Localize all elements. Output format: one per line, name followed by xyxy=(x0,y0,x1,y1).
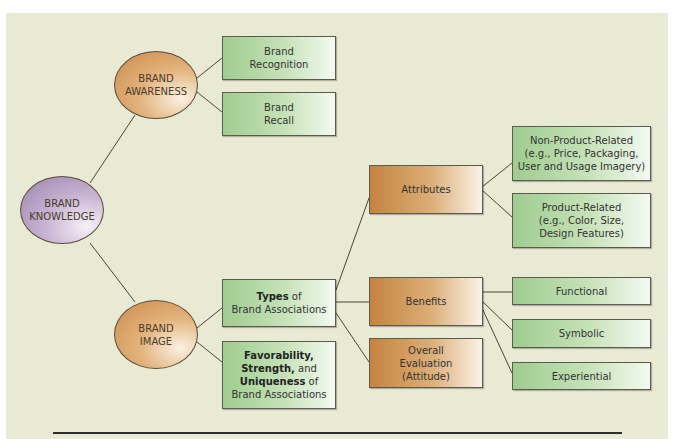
attributes-box: Attributes xyxy=(369,165,483,214)
box-label: Experiential xyxy=(552,370,612,383)
favorability-strength-uniqueness-box: Favorability,Strength, andUniqueness ofB… xyxy=(222,341,336,409)
box-label: Attributes xyxy=(401,183,450,196)
box-label: (e.g., Price, Packaging, xyxy=(525,148,639,159)
node-label: BRAND xyxy=(138,73,173,84)
box-label-bold: Types xyxy=(257,291,289,302)
brand-image-node: BRANDIMAGE xyxy=(114,300,198,369)
box-label: Evaluation xyxy=(400,358,453,369)
box-label: of xyxy=(289,291,302,302)
functional-box: Functional xyxy=(512,277,651,305)
brand-knowledge-node: BRANDKNOWLEDGE xyxy=(20,176,104,244)
bottom-rule xyxy=(53,432,622,434)
box-label-bold: Favorability, xyxy=(244,350,314,361)
box-label: Product-Related xyxy=(542,202,622,213)
box-label: (e.g., Color, Size, xyxy=(539,215,624,226)
box-label: Brand Associations xyxy=(231,304,326,315)
box-label-bold: Uniqueness xyxy=(240,376,306,387)
box-label: Brand xyxy=(264,102,294,113)
node-label: BRAND xyxy=(44,198,79,209)
box-label: of xyxy=(305,376,318,387)
node-label: KNOWLEDGE xyxy=(29,211,94,222)
brand-awareness-node: BRANDAWARENESS xyxy=(114,51,198,119)
box-label: Functional xyxy=(556,285,607,298)
non-product-related-box: Non-Product-Related(e.g., Price, Packagi… xyxy=(512,126,651,181)
box-label: Recognition xyxy=(250,59,309,70)
node-label: BRAND xyxy=(138,323,173,334)
box-label: Design Features) xyxy=(539,228,624,239)
symbolic-box: Symbolic xyxy=(512,319,651,348)
box-label: Brand xyxy=(264,46,294,57)
brand-recognition-box: BrandRecognition xyxy=(222,36,336,80)
brand-recall-box: BrandRecall xyxy=(222,92,336,136)
box-label-bold: Strength, xyxy=(241,363,295,374)
types-of-brand-associations-box: Types ofBrand Associations xyxy=(222,279,336,327)
box-label: Non-Product-Related xyxy=(530,135,633,146)
experiential-box: Experiential xyxy=(512,362,651,390)
box-label: Benefits xyxy=(406,295,447,308)
node-label: AWARENESS xyxy=(125,86,187,97)
node-label: IMAGE xyxy=(140,336,172,347)
box-label: Recall xyxy=(264,115,294,126)
benefits-box: Benefits xyxy=(369,277,483,326)
product-related-box: Product-Related(e.g., Color, Size,Design… xyxy=(512,193,651,248)
box-label: Symbolic xyxy=(559,327,605,340)
overall-evaluation-box: OverallEvaluation(Attitude) xyxy=(369,338,483,388)
box-label: (Attitude) xyxy=(402,371,450,382)
box-label: and xyxy=(295,363,317,374)
box-label: Overall xyxy=(408,345,444,356)
box-label: Brand Associations xyxy=(231,389,326,400)
box-label: User and Usage Imagery) xyxy=(518,161,646,172)
